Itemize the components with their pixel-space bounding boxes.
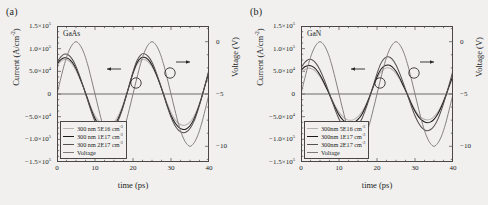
ytick-text: −1.5×10 xyxy=(25,158,49,166)
panel-b-plot-area: GaN 300nm 5E16 cm-3300nm 1E17 cm-3300nm … xyxy=(301,26,453,162)
legend-label-exp: -3 xyxy=(119,131,122,136)
panel-a-material-label: GaAs xyxy=(63,29,80,38)
legend-swatch xyxy=(307,136,318,137)
panel-a-x-axis-title: time (ps) xyxy=(57,180,209,190)
panel-b-y2-axis-title: Voltage (V) xyxy=(474,2,484,112)
panel-b-material-label: GaN xyxy=(307,29,321,38)
panel-a: (a) 1.5×1051.0×1055.0×1040−5.0×104−1.0×1… xyxy=(0,0,244,205)
legend-swatch xyxy=(63,128,74,129)
ytick-exp: 4 xyxy=(293,111,295,116)
panel-a-ytick-5: −1.0×105 xyxy=(25,135,51,143)
panel-a-xtick-1: 10 xyxy=(92,164,99,172)
panel-b-xtick-3: 30 xyxy=(412,164,419,172)
ytick-exp: 5 xyxy=(293,43,295,48)
panel-b-x-axis-labels: 010203040 xyxy=(301,163,453,177)
panel-a-legend-item-2: 300 nm 2E17 cm-3 xyxy=(63,140,123,148)
legend-swatch xyxy=(307,152,318,153)
legend-label-exp: -3 xyxy=(119,123,122,128)
panel-a-legend-item-1: 300 nm 1E17 cm-3 xyxy=(63,132,123,140)
ytick-text: 1.0×10 xyxy=(273,45,293,53)
ytick-exp: 5 xyxy=(293,134,295,139)
ytick-exp: 5 xyxy=(293,157,295,162)
panel-b-ytick-1: 1.0×105 xyxy=(273,45,295,53)
legend-label-text: 300nm 5E16 cm xyxy=(321,125,362,132)
legend-label: 300nm 1E17 cm-3 xyxy=(321,133,365,140)
panel-b-y2tick-1: −5 xyxy=(460,90,467,98)
ytick-text: 1.5×10 xyxy=(273,22,293,30)
panel-b-xtick-2: 20 xyxy=(374,164,381,172)
panel-a-ytick-3: 0 xyxy=(48,90,52,98)
panel-a-ytick-2: 5.0×104 xyxy=(29,67,51,75)
legend-label: 300nm 5E16 cm-3 xyxy=(321,125,365,132)
ytick-exp: 5 xyxy=(49,157,51,162)
panel-b-legend: 300nm 5E16 cm-3300nm 1E17 cm-3300nm 2E17… xyxy=(304,121,369,159)
panel-b-ytick-4: −5.0×104 xyxy=(269,113,295,121)
panel-a-ytick-4: −5.0×104 xyxy=(25,113,51,121)
legend-label: 300nm 2E17 cm-3 xyxy=(321,141,365,148)
panel-b-xtick-1: 10 xyxy=(336,164,343,172)
panel-a-y-axis-title-exp: -2 xyxy=(10,31,16,36)
legend-label-exp: -3 xyxy=(362,131,365,136)
panel-a-y-axis-labels: 1.5×1051.0×1055.0×1040−5.0×104−1.0×105−1… xyxy=(0,26,55,162)
ytick-text: 0 xyxy=(292,90,296,98)
ytick-text: −5.0×10 xyxy=(25,113,49,121)
panel-a-y-axis-title-close: ) xyxy=(11,28,21,31)
legend-swatch xyxy=(307,128,318,129)
panel-b-ytick-2: 5.0×104 xyxy=(273,67,295,75)
panel-a-xtick-3: 30 xyxy=(168,164,175,172)
ytick-exp: 5 xyxy=(293,21,295,26)
legend-label: Voltage xyxy=(77,149,96,156)
legend-label-exp: -3 xyxy=(362,123,365,128)
panel-b-ytick-3: 0 xyxy=(292,90,296,98)
panel-a-plot-area: GaAs 300 nm 5E16 cm-3300 nm 1E17 cm-3300… xyxy=(57,26,209,162)
legend-swatch xyxy=(63,144,74,145)
legend-label-text: Voltage xyxy=(77,149,96,156)
ytick-text: 1.5×10 xyxy=(29,22,49,30)
panel-b-y2tick-0: 0 xyxy=(460,38,464,46)
panel-b-legend-item-3: Voltage xyxy=(307,148,365,156)
legend-label-text: 300 nm 1E17 cm xyxy=(77,133,119,140)
ytick-text: 5.0×10 xyxy=(29,67,49,75)
legend-swatch xyxy=(307,144,318,145)
panel-b-x-axis-title: time (ps) xyxy=(301,180,453,190)
ytick-text: −5.0×10 xyxy=(269,113,293,121)
panel-a-y-axis-title: Current (A/cm-2) xyxy=(11,2,21,112)
ytick-exp: 4 xyxy=(293,66,295,71)
panel-b-legend-item-2: 300nm 2E17 cm-3 xyxy=(307,140,365,148)
panel-a-ytick-0: 1.5×105 xyxy=(29,22,51,30)
legend-label-text: 300 nm 2E17 cm xyxy=(77,141,119,148)
ytick-exp: 5 xyxy=(49,43,51,48)
ytick-exp: 5 xyxy=(49,134,51,139)
panel-a-ytick-1: 1.0×105 xyxy=(29,45,51,53)
panel-b-y-axis-labels: 1.5×1051.0×1055.0×1040−5.0×104−1.0×105−1… xyxy=(244,26,299,162)
panel-b-y-axis-title-close: ) xyxy=(255,28,265,31)
legend-swatch xyxy=(63,136,74,137)
ytick-exp: 4 xyxy=(49,66,51,71)
ytick-exp: 5 xyxy=(49,21,51,26)
panel-a-y2tick-0: 0 xyxy=(216,38,220,46)
panel-a-y2-axis-title: Voltage (V) xyxy=(230,2,240,112)
panel-b-ytick-0: 1.5×105 xyxy=(273,22,295,30)
legend-label-exp: -3 xyxy=(119,139,122,144)
panel-b-ytick-6: −1.5×105 xyxy=(269,158,295,166)
panel-b-xtick-4: 40 xyxy=(450,164,457,172)
legend-label: 300 nm 5E16 cm-3 xyxy=(77,125,123,132)
panel-a-xtick-4: 40 xyxy=(206,164,213,172)
ytick-text: −1.5×10 xyxy=(269,158,293,166)
panel-a-legend-item-0: 300 nm 5E16 cm-3 xyxy=(63,124,123,132)
panel-b: (b) 1.5×1051.0×1055.0×1040−5.0×104−1.0×1… xyxy=(244,0,488,205)
ytick-text: 5.0×10 xyxy=(273,67,293,75)
panel-b-y-axis-title-text: Current (A/cm xyxy=(255,36,265,86)
legend-label-text: 300nm 2E17 cm xyxy=(321,141,362,148)
panel-a-legend-item-3: Voltage xyxy=(63,148,123,156)
panel-a-y2tick-2: −10 xyxy=(216,142,227,150)
ytick-exp: 4 xyxy=(49,111,51,116)
panel-a-y-axis-title-text: Current (A/cm xyxy=(11,36,21,86)
legend-label: Voltage xyxy=(321,149,340,156)
panel-b-xtick-0: 0 xyxy=(299,164,303,172)
panel-a-xtick-2: 20 xyxy=(130,164,137,172)
legend-label: 300 nm 1E17 cm-3 xyxy=(77,133,123,140)
ytick-text: −1.0×10 xyxy=(25,135,49,143)
figure-container: (a) 1.5×1051.0×1055.0×1040−5.0×104−1.0×1… xyxy=(0,0,488,205)
panel-a-ytick-6: −1.5×105 xyxy=(25,158,51,166)
